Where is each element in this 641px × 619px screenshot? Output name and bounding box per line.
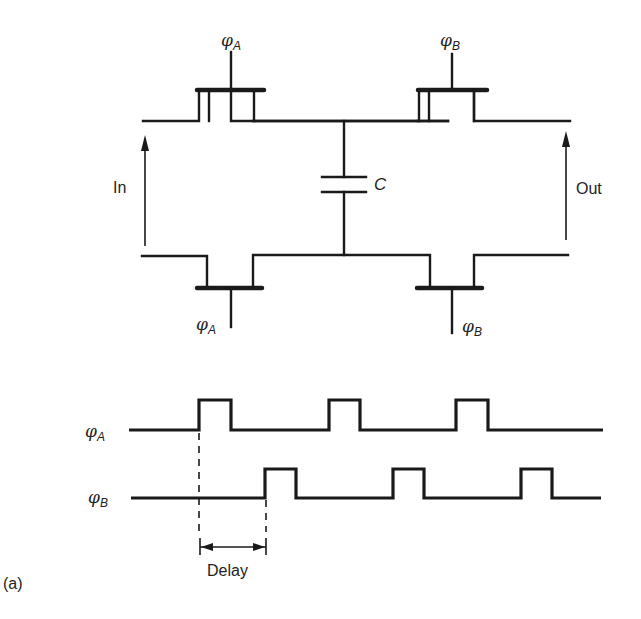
input-arrow: In: [113, 135, 149, 246]
top-rail: [143, 90, 570, 121]
clock-label-phi-b-top: φB: [440, 30, 460, 53]
arrow-up-icon: [141, 135, 149, 151]
clock-label-phi-b-bottom: φB: [462, 316, 482, 339]
input-label: In: [113, 179, 126, 196]
delay-annotation: Delay: [199, 433, 266, 579]
transistor-bottom-right: φB: [417, 288, 482, 339]
clock-label-phi-a-bottom: φA: [196, 314, 216, 337]
signal-label-phi-b: φB: [88, 487, 108, 510]
capacitor: C: [322, 121, 387, 255]
capacitor-label: C: [374, 175, 387, 194]
shift-register-diagram: φA φB φA φB C: [0, 0, 641, 619]
arrow-left-icon: [201, 543, 213, 551]
signal-label-phi-a: φA: [85, 421, 105, 444]
timing-phi-a: φA: [85, 400, 603, 444]
figure-label: (a): [3, 575, 23, 592]
output-label: Out: [576, 180, 602, 197]
clock-label-phi-a-top: φA: [221, 30, 241, 53]
timing-phi-b: φB: [88, 469, 601, 510]
delay-label: Delay: [207, 562, 248, 579]
arrow-right-icon: [253, 543, 265, 551]
transistor-bottom-left: φA: [196, 288, 262, 337]
bottom-rail: [142, 255, 568, 288]
arrow-up-icon: [562, 131, 570, 147]
output-arrow: Out: [562, 131, 602, 240]
transistor-top-right: φB: [418, 30, 487, 121]
